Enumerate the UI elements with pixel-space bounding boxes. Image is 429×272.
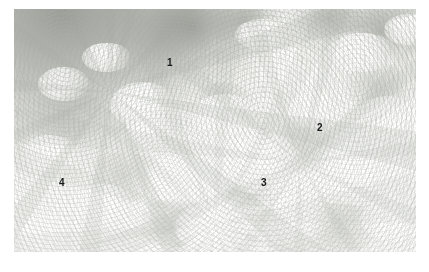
figure-root: 1 2 3 4	[0, 0, 429, 272]
photograph-plate	[14, 9, 416, 252]
annotation-label-2: 2	[317, 123, 323, 133]
annotation-label-4: 4	[59, 178, 65, 188]
annotation-label-3: 3	[261, 178, 267, 188]
print-haze	[14, 9, 416, 252]
annotation-label-1: 1	[167, 58, 173, 68]
